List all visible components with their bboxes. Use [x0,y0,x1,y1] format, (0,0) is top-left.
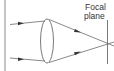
arrow-icon [18,58,24,61]
focal-plane-label-line2: plane [84,11,105,21]
arrow-icon [74,52,81,56]
arrow-icon [74,29,81,33]
refracted-ray-bottom [49,42,114,63]
refracted-ray-top [49,20,114,47]
lens [41,19,54,63]
incoming-ray-top [10,21,45,25]
lens-diagram: Focal plane [0,0,114,71]
arrow-icon [18,22,24,25]
incoming-ray-bottom [10,58,45,61]
